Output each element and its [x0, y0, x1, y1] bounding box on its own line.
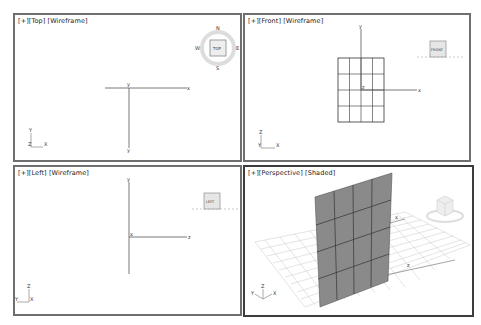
svg-text:y: y — [127, 81, 130, 88]
svg-text:Z: Z — [261, 283, 265, 289]
svg-text:Y: Y — [28, 127, 33, 133]
viewcube-front[interactable]: FRONT — [415, 37, 465, 67]
svg-text:x: x — [187, 85, 190, 91]
svg-text:y: y — [359, 23, 362, 30]
svg-text:Y: Y — [15, 296, 19, 302]
perspective-view-canvas[interactable]: x z Z Y X — [245, 167, 474, 317]
svg-text:N: N — [216, 25, 220, 31]
svg-text:X: X — [273, 290, 277, 296]
svg-text:z: z — [188, 234, 191, 240]
viewcube-left[interactable]: LEFT — [190, 189, 240, 219]
svg-text:FRONT: FRONT — [431, 48, 444, 52]
svg-text:W: W — [195, 45, 200, 51]
svg-text:X: X — [44, 141, 48, 147]
viewcube-perspective[interactable] — [423, 192, 468, 227]
svg-text:Z: Z — [259, 129, 263, 135]
viewport-front[interactable]: [+][Front] [Wireframe] y x z Z X Y FRONT — [243, 13, 471, 162]
svg-text:S: S — [216, 65, 219, 71]
svg-text:Z: Z — [28, 141, 32, 147]
svg-text:TOP: TOP — [212, 46, 222, 51]
viewcube-top[interactable]: TOP N S E W — [195, 25, 242, 71]
svg-text:y: y — [127, 176, 130, 183]
viewport-perspective[interactable]: [+][Perspective] [Shaded] x — [243, 165, 474, 317]
svg-text:X: X — [30, 296, 34, 302]
svg-text:z: z — [407, 262, 410, 268]
plane-object — [315, 173, 392, 307]
svg-text:y: y — [127, 147, 130, 154]
viewport-top[interactable]: [+][Top] [Wireframe] y x y Y X Z TOP N S… — [13, 13, 242, 162]
svg-text:E: E — [236, 45, 239, 51]
svg-text:LEFT: LEFT — [206, 200, 215, 204]
svg-text:Y: Y — [250, 290, 255, 296]
svg-text:X: X — [276, 142, 280, 148]
svg-text:Z: Z — [27, 283, 31, 289]
svg-text:x: x — [418, 87, 421, 93]
svg-text:x: x — [395, 214, 398, 220]
svg-text:x: x — [130, 231, 133, 237]
svg-text:z: z — [362, 84, 365, 90]
viewport-left[interactable]: [+][Left] [Wireframe] y z x Z Y X LEFT — [13, 165, 242, 316]
